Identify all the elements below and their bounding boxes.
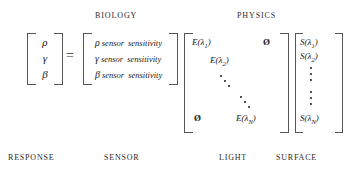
light-entry-base: E(λ <box>236 113 248 123</box>
vertical-ellipsis-dot <box>310 103 312 105</box>
vertical-ellipsis-dot <box>310 97 312 99</box>
surface-entry-close: ) <box>316 113 319 123</box>
sensor-row-text: sensor <box>101 54 123 64</box>
caption-sensor: SENSOR <box>104 153 139 162</box>
sensor-row-symbol: ρ <box>95 37 102 48</box>
light-entry-close: ) <box>226 55 229 65</box>
sensor-row-symbol: β <box>95 69 102 80</box>
sensor-row-text2: sensitivity <box>127 54 161 64</box>
vertical-ellipsis-dot <box>310 67 312 69</box>
sensor-row-text2: sensitivity <box>128 70 162 80</box>
surface-vector: S(λ1) S(λ2) S(λN) <box>295 33 343 133</box>
diagonal-ellipsis-dot <box>228 85 230 87</box>
equals-sign: = <box>66 48 74 64</box>
vertical-ellipsis-dot <box>310 91 312 93</box>
surface-entry-base: S(λ <box>300 51 311 61</box>
caption-response: RESPONSE <box>8 153 54 162</box>
caption-surface: SURFACE <box>276 153 317 162</box>
sensor-row: βsensorsensitivity <box>95 69 162 80</box>
vertical-ellipsis-dot <box>310 79 312 81</box>
light-entry-close: ) <box>253 113 256 123</box>
surface-entry-2: S(λ2) <box>300 51 318 63</box>
light-diagonal-entry-1: E(λ1) <box>192 37 211 49</box>
surface-entry-1: S(λ1) <box>300 37 318 49</box>
response-vector: ρ γ β <box>27 33 63 85</box>
light-zero-upper-right: Ø <box>263 37 270 47</box>
sensor-row: ρsensorsensitivity <box>95 37 162 48</box>
surface-entry-close: ) <box>315 51 318 61</box>
sensor-row-text: sensor <box>102 38 124 48</box>
sensor-bracket-right <box>169 33 178 85</box>
light-entry-base: E(λ <box>192 37 204 47</box>
sensor-bracket-left <box>83 33 92 85</box>
diagonal-ellipsis-dot <box>240 96 242 98</box>
light-diagonal-entry-n: E(λN) <box>236 113 256 125</box>
diagonal-ellipsis-dot <box>224 80 226 82</box>
sensor-matrix: ρsensorsensitivity γsensorsensitivity βs… <box>83 33 178 85</box>
diagonal-ellipsis-dot <box>248 106 250 108</box>
response-entry-beta: β <box>27 68 63 80</box>
diagonal-ellipsis-dot <box>244 101 246 103</box>
light-zero-lower-left: Ø <box>194 113 201 123</box>
heading-biology: BIOLOGY <box>95 11 137 20</box>
light-diagonal-entry-2: E(λ2) <box>210 55 229 67</box>
response-entry-rho: ρ <box>27 36 63 48</box>
sensor-row-text: sensor <box>102 70 124 80</box>
caption-light: LIGHT <box>219 153 247 162</box>
light-bracket-right <box>280 33 289 133</box>
surface-entry-base: S(λ <box>300 113 311 123</box>
light-entry-close: ) <box>208 37 211 47</box>
light-matrix: E(λ1) E(λ2) E(λN) Ø Ø <box>184 33 289 133</box>
diagonal-ellipsis-dot <box>220 75 222 77</box>
sensor-row-text2: sensitivity <box>128 38 162 48</box>
heading-physics: PHYSICS <box>237 11 276 20</box>
response-entry-gamma: γ <box>27 52 63 64</box>
vertical-ellipsis-dot <box>310 73 312 75</box>
surface-entry-close: ) <box>315 37 318 47</box>
surface-entry-n: S(λN) <box>300 113 319 125</box>
sensor-row: γsensorsensitivity <box>95 53 161 64</box>
light-entry-base: E(λ <box>210 55 222 65</box>
surface-bracket-right <box>335 33 343 133</box>
surface-entry-base: S(λ <box>300 37 311 47</box>
